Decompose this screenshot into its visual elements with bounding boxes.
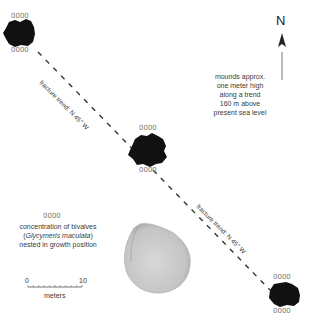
scale-min-label: 0 [25,276,29,285]
bivalve-cluster: 0000 [273,273,291,281]
mound-note: mounds approx. one meter high along a tr… [190,72,290,117]
note-line: 160 m above [190,99,290,108]
species-name: Glycymeris maculata [26,232,91,239]
note-line: along a trend [190,90,290,99]
bivalve-cluster: 0000 [139,124,157,132]
note-line: present sea level [190,108,290,117]
mound-3 [269,282,300,307]
legend-line-1: concentration of bivalves [8,222,108,231]
mound-1 [3,19,35,47]
fracture-mound-diagram: N 0000 0000 0000 0000 0000 0000 0000 fra… [0,0,316,322]
north-arrow-icon [278,33,286,47]
bivalve-cluster: 0000 [11,12,29,20]
legend-bivalve-symbol: 0000 [43,212,61,220]
legend: concentration of bivalves (Glycymeris ma… [8,222,108,249]
scale-max-label: 10 [79,276,87,285]
scale-unit-label: meters [44,291,65,300]
bivalve-shell-illustration [124,223,190,293]
legend-line-2: (Glycymeris maculata) [8,231,108,240]
legend-line-3: nested in growth position [8,240,108,249]
bivalve-cluster: 0000 [139,166,157,174]
mound-2 [128,133,167,167]
note-line: one meter high [190,81,290,90]
bivalve-cluster: 0000 [273,307,291,315]
bivalve-cluster: 0000 [11,46,29,54]
diagram-graphics [0,0,316,322]
paren-close: ) [90,232,92,239]
note-line: mounds approx. [190,72,290,81]
north-label: N [276,14,285,28]
